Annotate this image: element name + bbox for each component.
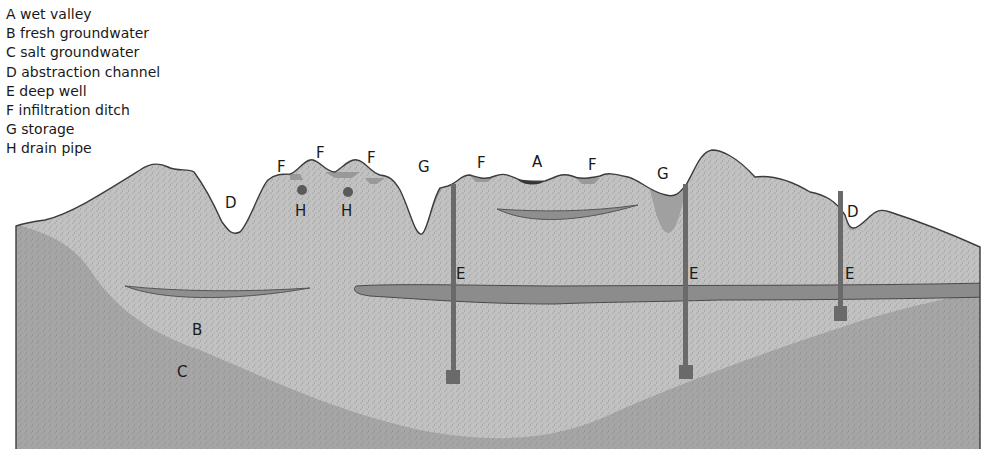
label-e: E xyxy=(689,265,698,283)
drain-pipe-icon xyxy=(343,187,353,197)
label-g: G xyxy=(657,165,669,183)
label-d: D xyxy=(225,194,237,212)
label-f: F xyxy=(277,158,286,176)
label-b: B xyxy=(192,321,202,339)
label-f: F xyxy=(367,149,376,167)
label-e: E xyxy=(845,265,854,283)
label-f: F xyxy=(316,144,325,162)
label-e: E xyxy=(456,265,465,283)
label-c: C xyxy=(177,363,187,381)
cross-section-diagram: A B C D D E E E F F F F F G G H H xyxy=(0,0,990,459)
label-f: F xyxy=(477,154,486,172)
label-f: F xyxy=(588,156,597,174)
label-d: D xyxy=(847,203,859,221)
label-h: H xyxy=(295,202,306,220)
label-a: A xyxy=(532,153,543,171)
label-h: H xyxy=(341,202,352,220)
drain-pipe-icon xyxy=(297,185,307,195)
label-g: G xyxy=(418,158,430,176)
